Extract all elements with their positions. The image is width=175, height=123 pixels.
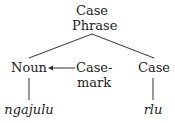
case-node-label: Case	[136, 60, 172, 75]
casemark-line2: mark	[76, 75, 112, 90]
case-phrase-tree-diagram: Case Phrase Noun Case- mark Case ngajulu…	[0, 0, 175, 123]
root-node-label: Case Phrase	[72, 3, 112, 33]
noun-node-label: Noun	[9, 60, 49, 75]
root-line1: Case	[72, 3, 112, 18]
edge-root-to-noun	[29, 34, 92, 58]
noun-word-leaf: ngajulu	[4, 102, 54, 117]
case-word-leaf: rlu	[138, 102, 168, 117]
root-line2: Phrase	[72, 18, 112, 33]
casemark-node-label: Case- mark	[76, 60, 112, 90]
casemark-line1: Case-	[76, 60, 112, 75]
edge-root-to-case	[92, 34, 154, 58]
